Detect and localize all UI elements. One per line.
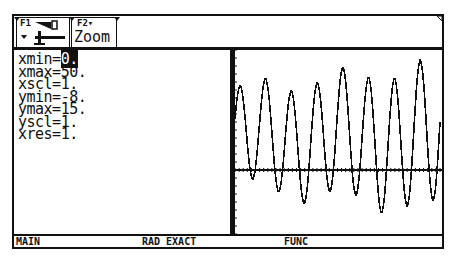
graph-plot: [233, 50, 442, 234]
corner-marker-icon: [437, 16, 442, 21]
status-graph-mode: FUNC: [284, 236, 308, 248]
toolbar: F1 F2▾ Zoom: [14, 16, 442, 50]
status-mode: MAIN: [16, 236, 40, 248]
corner-marker-icon: [114, 17, 120, 21]
calculator-screen: F1 F2▾ Zoom xmin=0. xmax=50. xscl=1. ymi…: [12, 14, 444, 249]
graph-screen: [233, 50, 442, 234]
f1-tools-button[interactable]: F1: [16, 17, 70, 48]
status-bar: MAIN RAD EXACT FUNC: [14, 234, 442, 249]
f2-key-label: F2▾: [77, 19, 93, 28]
f2-zoom-button[interactable]: F2▾ Zoom: [71, 17, 117, 48]
tools-icon: [17, 18, 69, 47]
corner-marker-icon: [69, 17, 75, 21]
status-angle: RAD EXACT: [142, 236, 196, 248]
zoom-label: Zoom: [74, 29, 110, 45]
window-editor[interactable]: xmin=0. xmax=50. xscl=1. ymin=-8. ymax=1…: [14, 50, 233, 234]
window-var-xres[interactable]: xres=1.: [14, 128, 230, 141]
